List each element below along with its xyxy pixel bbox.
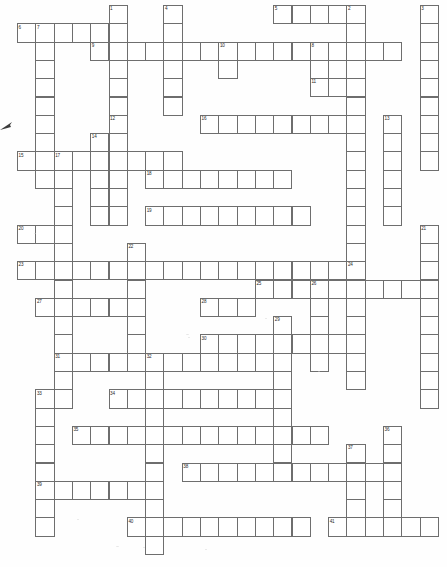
crossword-cell[interactable] — [255, 42, 274, 61]
crossword-cell[interactable] — [237, 42, 256, 61]
crossword-cell[interactable] — [420, 280, 439, 299]
crossword-cell[interactable] — [35, 298, 54, 317]
crossword-cell[interactable] — [273, 115, 292, 134]
crossword-cell[interactable] — [328, 463, 347, 482]
crossword-cell[interactable] — [420, 243, 439, 262]
crossword-cell[interactable] — [401, 280, 420, 299]
crossword-cell[interactable] — [218, 353, 237, 372]
crossword-cell[interactable] — [218, 42, 237, 61]
crossword-cell[interactable] — [383, 42, 402, 61]
crossword-cell[interactable] — [346, 334, 365, 353]
crossword-cell[interactable] — [182, 389, 201, 408]
crossword-cell[interactable] — [35, 133, 54, 152]
crossword-cell[interactable] — [35, 225, 54, 244]
crossword-cell[interactable] — [273, 517, 292, 536]
crossword-cell[interactable] — [127, 280, 146, 299]
crossword-cell[interactable] — [383, 444, 402, 463]
crossword-cell[interactable] — [237, 389, 256, 408]
crossword-cell[interactable] — [346, 78, 365, 97]
crossword-cell[interactable] — [255, 463, 274, 482]
crossword-cell[interactable] — [127, 426, 146, 445]
crossword-cell[interactable] — [72, 426, 91, 445]
crossword-cell[interactable] — [54, 206, 73, 225]
crossword-cell[interactable] — [163, 23, 182, 42]
crossword-cell[interactable] — [346, 517, 365, 536]
crossword-cell[interactable] — [200, 353, 219, 372]
crossword-cell[interactable] — [35, 23, 54, 42]
crossword-cell[interactable] — [109, 97, 128, 116]
crossword-cell[interactable] — [35, 408, 54, 427]
crossword-cell[interactable] — [383, 463, 402, 482]
crossword-cell[interactable] — [35, 60, 54, 79]
crossword-cell[interactable] — [145, 426, 164, 445]
crossword-cell[interactable] — [90, 23, 109, 42]
crossword-cell[interactable] — [420, 298, 439, 317]
crossword-cell[interactable] — [127, 316, 146, 335]
crossword-cell[interactable] — [346, 115, 365, 134]
crossword-cell[interactable] — [346, 206, 365, 225]
crossword-cell[interactable] — [72, 151, 91, 170]
crossword-cell[interactable] — [145, 151, 164, 170]
crossword-cell[interactable] — [200, 463, 219, 482]
crossword-cell[interactable] — [310, 298, 329, 317]
crossword-cell[interactable] — [420, 353, 439, 372]
crossword-cell[interactable] — [328, 5, 347, 24]
crossword-cell[interactable] — [182, 42, 201, 61]
crossword-cell[interactable] — [200, 261, 219, 280]
crossword-cell[interactable] — [200, 42, 219, 61]
crossword-cell[interactable] — [200, 298, 219, 317]
crossword-cell[interactable] — [54, 389, 73, 408]
crossword-cell[interactable] — [109, 298, 128, 317]
crossword-cell[interactable] — [90, 426, 109, 445]
crossword-cell[interactable] — [383, 133, 402, 152]
crossword-cell[interactable] — [310, 353, 329, 372]
crossword-cell[interactable] — [182, 463, 201, 482]
crossword-cell[interactable] — [145, 42, 164, 61]
crossword-cell[interactable] — [365, 463, 384, 482]
crossword-cell[interactable] — [292, 280, 311, 299]
crossword-cell[interactable] — [346, 133, 365, 152]
crossword-cell[interactable] — [35, 426, 54, 445]
crossword-cell[interactable] — [145, 389, 164, 408]
crossword-cell[interactable] — [109, 42, 128, 61]
crossword-cell[interactable] — [163, 261, 182, 280]
crossword-cell[interactable] — [90, 261, 109, 280]
crossword-grid[interactable]: 1234567891011121314151617181920212223242… — [0, 0, 447, 567]
crossword-cell[interactable] — [163, 5, 182, 24]
crossword-cell[interactable] — [237, 261, 256, 280]
crossword-cell[interactable] — [255, 261, 274, 280]
crossword-cell[interactable] — [145, 261, 164, 280]
crossword-cell[interactable] — [127, 389, 146, 408]
crossword-cell[interactable] — [35, 97, 54, 116]
crossword-cell[interactable] — [383, 170, 402, 189]
crossword-cell[interactable] — [273, 280, 292, 299]
crossword-cell[interactable] — [383, 499, 402, 518]
crossword-cell[interactable] — [163, 78, 182, 97]
crossword-cell[interactable] — [383, 151, 402, 170]
crossword-cell[interactable] — [90, 151, 109, 170]
crossword-cell[interactable] — [127, 481, 146, 500]
crossword-cell[interactable] — [383, 426, 402, 445]
crossword-cell[interactable] — [200, 334, 219, 353]
crossword-cell[interactable] — [218, 517, 237, 536]
crossword-cell[interactable] — [182, 206, 201, 225]
crossword-cell[interactable] — [346, 298, 365, 317]
crossword-cell[interactable] — [292, 115, 311, 134]
crossword-cell[interactable] — [292, 5, 311, 24]
crossword-cell[interactable] — [273, 316, 292, 335]
crossword-cell[interactable] — [182, 426, 201, 445]
crossword-cell[interactable] — [163, 426, 182, 445]
crossword-cell[interactable] — [218, 170, 237, 189]
crossword-cell[interactable] — [163, 353, 182, 372]
crossword-cell[interactable] — [127, 353, 146, 372]
crossword-cell[interactable] — [346, 316, 365, 335]
crossword-cell[interactable] — [310, 5, 329, 24]
crossword-cell[interactable] — [383, 188, 402, 207]
crossword-cell[interactable] — [346, 42, 365, 61]
crossword-cell[interactable] — [310, 316, 329, 335]
crossword-cell[interactable] — [346, 280, 365, 299]
crossword-cell[interactable] — [54, 188, 73, 207]
crossword-cell[interactable] — [237, 206, 256, 225]
crossword-cell[interactable] — [273, 444, 292, 463]
crossword-cell[interactable] — [237, 170, 256, 189]
